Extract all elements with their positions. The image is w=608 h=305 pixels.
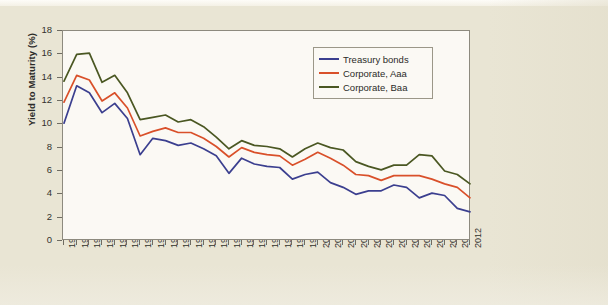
legend-item: Corporate, Baa bbox=[319, 80, 426, 94]
y-tick-label: 14 bbox=[26, 71, 52, 82]
y-tick-label: 16 bbox=[26, 47, 52, 58]
page-background: Yield to Maturity (%) 024681012141618 19… bbox=[0, 0, 608, 305]
y-tick-label: 0 bbox=[26, 234, 52, 245]
y-tick-label: 4 bbox=[26, 187, 52, 198]
y-tick-label: 6 bbox=[26, 164, 52, 175]
y-tick-label: 18 bbox=[26, 24, 52, 35]
legend-label: Treasury bonds bbox=[343, 54, 409, 65]
legend-item: Treasury bonds bbox=[319, 52, 426, 66]
y-tick-label: 10 bbox=[26, 117, 52, 128]
x-tick-label: 2012 bbox=[473, 228, 483, 248]
legend-item: Corporate, Aaa bbox=[319, 66, 426, 80]
chart-legend: Treasury bondsCorporate, AaaCorporate, B… bbox=[313, 47, 433, 99]
y-tick-mark bbox=[57, 240, 62, 241]
y-tick-label: 2 bbox=[26, 211, 52, 222]
legend-color-swatch bbox=[319, 72, 339, 74]
legend-color-swatch bbox=[319, 58, 339, 60]
y-tick-label: 12 bbox=[26, 94, 52, 105]
y-tick-label: 8 bbox=[26, 141, 52, 152]
yield-to-maturity-line-chart: Yield to Maturity (%) 024681012141618 19… bbox=[0, 0, 608, 305]
legend-label: Corporate, Aaa bbox=[343, 68, 407, 79]
legend-label: Corporate, Baa bbox=[343, 82, 407, 93]
legend-color-swatch bbox=[319, 86, 339, 88]
